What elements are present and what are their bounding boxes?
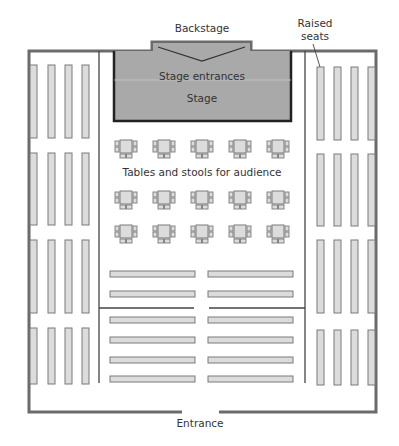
- stage-entrances-label: Stage entrances: [159, 70, 245, 82]
- audience-benches: [110, 271, 293, 382]
- backstage-label: Backstage: [175, 22, 230, 34]
- raised-seats-pointer: [313, 44, 320, 67]
- raised-seats-label-line1: Raised: [297, 17, 332, 30]
- entrance-label: Entrance: [176, 417, 223, 429]
- left-raised-seats: [30, 65, 89, 384]
- raised-seats-label-line2: seats: [301, 30, 329, 43]
- tables-and-stools: [115, 140, 289, 243]
- tables-label: Tables and stools for audience: [122, 166, 281, 178]
- venue-floor-plan: Backstage Raised seats Stage entrances S…: [0, 0, 399, 446]
- floor-plan-svg: [0, 0, 399, 446]
- stage: [114, 43, 291, 121]
- right-raised-seats: [317, 67, 375, 385]
- stage-label: Stage: [187, 92, 217, 104]
